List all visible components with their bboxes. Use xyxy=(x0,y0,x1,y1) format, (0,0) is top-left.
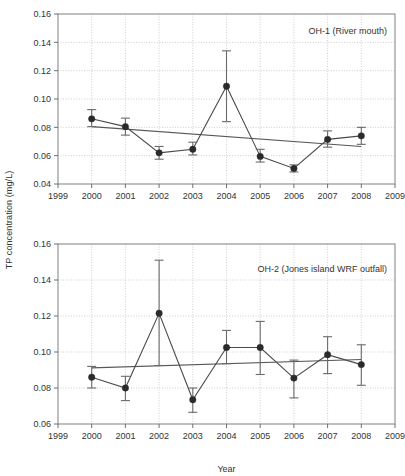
y-tick-label: 0.12 xyxy=(33,311,51,321)
x-tick-label: 1999 xyxy=(48,191,68,201)
chart-svg-oh1: 0.040.060.080.100.120.140.16199920002001… xyxy=(18,4,405,216)
data-point-marker xyxy=(122,385,128,391)
x-tick-label: 2007 xyxy=(318,191,338,201)
y-tick-label: 0.06 xyxy=(33,151,51,161)
data-point-marker xyxy=(190,397,196,403)
y-tick-label: 0.10 xyxy=(33,347,51,357)
data-point-marker xyxy=(156,310,162,316)
x-tick-label: 2008 xyxy=(351,191,371,201)
figure-container: TP concentration (mg/L) 0.040.060.080.10… xyxy=(0,0,405,476)
data-point-marker xyxy=(122,123,128,129)
y-tick-label: 0.08 xyxy=(33,383,51,393)
data-point-marker xyxy=(324,136,330,142)
data-point-marker xyxy=(89,116,95,122)
y-tick-label: 0.16 xyxy=(33,239,51,249)
data-point-marker xyxy=(257,344,263,350)
y-tick-label: 0.16 xyxy=(33,9,51,19)
data-point-marker xyxy=(156,150,162,156)
y-tick-label: 0.06 xyxy=(33,419,51,429)
x-tick-label: 2009 xyxy=(385,191,405,201)
x-tick-label: 2001 xyxy=(115,431,135,441)
x-tick-label: 2002 xyxy=(149,191,169,201)
x-tick-label: 2004 xyxy=(216,191,236,201)
x-tick-label: 2003 xyxy=(183,191,203,201)
x-tick-label: 2001 xyxy=(115,191,135,201)
data-point-marker xyxy=(358,133,364,139)
chart-panel-oh2: 0.060.080.100.120.140.161999200020012002… xyxy=(18,234,405,476)
panel-annotation: OH-1 (River mouth) xyxy=(308,26,387,36)
x-tick-label: 2005 xyxy=(250,191,270,201)
chart-svg-oh2: 0.060.080.100.120.140.161999200020012002… xyxy=(18,234,405,476)
y-tick-label: 0.08 xyxy=(33,123,51,133)
y-tick-label: 0.14 xyxy=(33,275,51,285)
x-tick-label: 2000 xyxy=(82,191,102,201)
x-tick-label: 1999 xyxy=(48,431,68,441)
x-tick-label: 2008 xyxy=(351,431,371,441)
y-tick-label: 0.12 xyxy=(33,66,51,76)
data-point-marker xyxy=(291,375,297,381)
y-tick-label: 0.04 xyxy=(33,179,51,189)
x-tick-label: 2004 xyxy=(216,431,236,441)
x-tick-label: 2003 xyxy=(183,431,203,441)
data-point-marker xyxy=(324,352,330,358)
x-tick-label: 2006 xyxy=(284,431,304,441)
data-point-marker xyxy=(223,344,229,350)
x-tick-label: 2006 xyxy=(284,191,304,201)
x-tick-label: 2002 xyxy=(149,431,169,441)
x-tick-label: 2009 xyxy=(385,431,405,441)
data-point-marker xyxy=(190,146,196,152)
data-point-marker xyxy=(358,361,364,367)
y-axis-label-container: TP concentration (mg/L) xyxy=(0,0,18,440)
x-tick-label: 2007 xyxy=(318,431,338,441)
y-tick-label: 0.14 xyxy=(33,38,51,48)
chart-panel-oh1: 0.040.060.080.100.120.140.16199920002001… xyxy=(18,4,405,216)
y-axis-label: TP concentration (mg/L) xyxy=(4,171,14,270)
data-point-marker xyxy=(257,153,263,159)
panel-annotation: OH-2 (Jones island WRF outfall) xyxy=(257,264,387,274)
trend-line xyxy=(92,127,362,147)
data-point-marker xyxy=(89,374,95,380)
x-axis-title: Year xyxy=(217,464,235,474)
data-point-marker xyxy=(223,83,229,89)
x-tick-label: 2000 xyxy=(82,431,102,441)
data-point-marker xyxy=(291,165,297,171)
x-tick-label: 2005 xyxy=(250,431,270,441)
y-tick-label: 0.10 xyxy=(33,94,51,104)
